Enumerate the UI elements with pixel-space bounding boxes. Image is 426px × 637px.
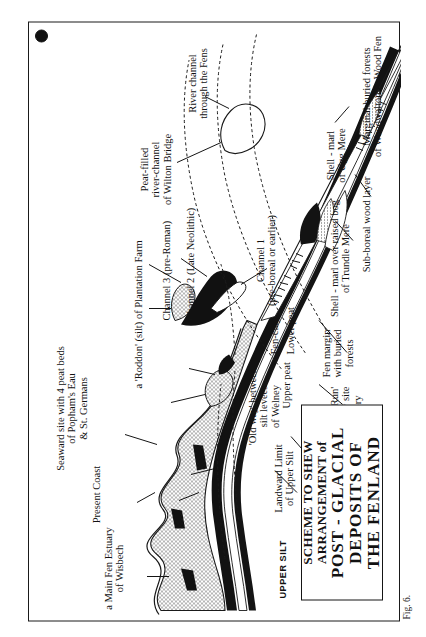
label-present-coast: Present Coast [91, 446, 102, 542]
figure-plate: a Main Fen Estuary of Wisbech Present Co… [18, 10, 408, 627]
figure-frame: a Main Fen Estuary of Wisbech Present Co… [28, 21, 400, 621]
rotated-plate: a Main Fen Estuary of Wisbech Present Co… [18, 10, 408, 627]
title-line-3: POST - GLACIAL [329, 426, 347, 578]
plate-corner-mark [35, 29, 48, 42]
key-upper-silt: UPPER SILT [279, 540, 289, 598]
label-channel-3: Channel 3 (pre-Roman) [161, 220, 172, 320]
label-upper-peat: Upper peat [281, 362, 292, 408]
label-main-fen-estuary: a Main Fen Estuary of Wisbech [103, 520, 126, 616]
label-marginal-buried-forests: Marginal buried forests of Woodwalton & … [361, 22, 384, 170]
label-landward-limit-upper-silt: Landward Limit of Upper Silt [273, 432, 296, 524]
title-line-2: ARRANGEMENT of [315, 441, 329, 564]
label-river-channel-through-fens: River channel through the Fens [187, 30, 210, 136]
figure-caption: Fig. 6. [402, 594, 412, 619]
title-line-4: DEPOSITS OF [347, 441, 365, 564]
label-channel-2: Channel 2 (Late Neolithic) [185, 207, 196, 320]
title-line-1: SCHEME TO SHEW [301, 440, 315, 564]
label-roddon-plantation-farm: a 'Roddon' (silt) of Plantation Farm [133, 240, 144, 388]
wilton-bridge-river-channel [221, 104, 265, 153]
scanned-page: a Main Fen Estuary of Wisbech Present Co… [0, 0, 426, 637]
label-channel-1: Channel 1 (pre-boreal or earlier) [255, 192, 278, 328]
label-seaward-site-peat-beds: Seaward site with 4 peat beds of Popham'… [55, 324, 89, 492]
label-shell-marl-trundle-mere: Shell - marl over raised bog of Trundle … [329, 184, 352, 332]
label-shell-marl-ugg-mere: Shell - marl of Ugg Mere [325, 114, 348, 196]
title-line-5: THE FENLAND [365, 435, 383, 568]
label-sub-boreal-wood-layer: Sub-boreal wood layer [361, 158, 372, 290]
label-lower-peat: Lower peat [285, 306, 296, 354]
title-cartouche: SCHEME TO SHEW ARRANGEMENT of POST - GLA… [301, 404, 383, 600]
label-peat-filled-river-channel-wilton: Peat-filled river-channel of Wilton Brid… [139, 114, 173, 224]
